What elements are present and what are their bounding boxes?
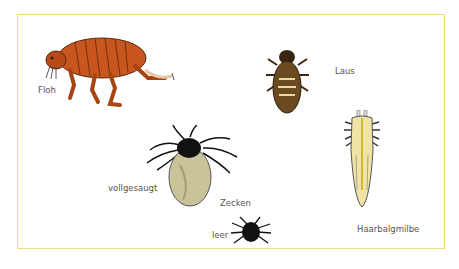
label-tick-engorged: vollgesaugt <box>108 183 157 193</box>
label-tick-empty: leer <box>212 230 228 240</box>
empty-tick-illustration <box>230 215 272 245</box>
label-louse: Laus <box>335 66 355 76</box>
follicle-mite-illustration <box>342 110 382 210</box>
flea-illustration <box>40 30 180 110</box>
label-follicle-mite: Haarbalgmilbe <box>357 224 419 234</box>
louse-illustration <box>265 45 310 120</box>
label-ticks: Zecken <box>220 198 251 208</box>
label-flea: Floh <box>38 85 56 95</box>
